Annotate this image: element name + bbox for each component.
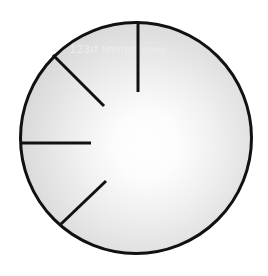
figure-root: 123rf limited www xyxy=(0,0,268,276)
circle-diagram-canvas: 123rf limited www xyxy=(0,0,268,276)
watermark-layer: 123rf limited www xyxy=(70,43,167,55)
watermark-text: 123rf limited www xyxy=(70,43,167,55)
